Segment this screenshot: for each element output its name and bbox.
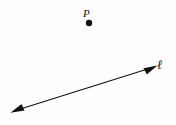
filled-dot-marker [86,20,92,26]
point-p-group [86,20,92,26]
point-label-p: P [83,8,90,19]
line-l-group [11,66,158,113]
line-l-shaft [14,67,154,111]
arrowhead-left-icon [11,104,25,113]
arrowhead-right-icon [144,66,158,75]
geometry-figure: P ℓ [0,0,176,125]
line-label-l: ℓ [157,58,162,71]
